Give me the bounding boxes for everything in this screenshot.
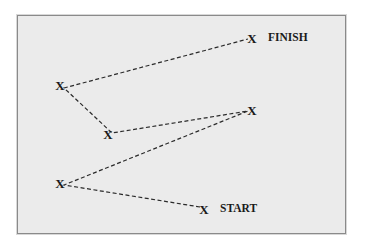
- start-label: START: [220, 203, 257, 215]
- waypoint-marker-1: X: [55, 177, 64, 190]
- waypoint-marker-2: X: [247, 104, 256, 117]
- waypoint-marker-3: X: [103, 128, 112, 141]
- finish-label: FINISH: [268, 32, 308, 44]
- waypoint-marker-4: X: [55, 79, 64, 92]
- start-marker: X: [199, 203, 208, 216]
- dashed-route: [64, 39, 248, 207]
- path-lines: [0, 0, 366, 248]
- finish-marker: X: [247, 32, 256, 45]
